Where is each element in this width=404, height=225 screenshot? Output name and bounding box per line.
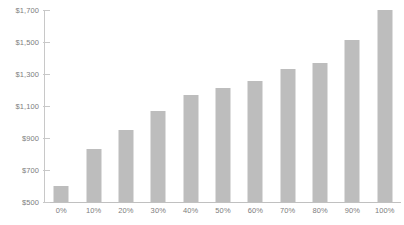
x-axis-line — [44, 202, 401, 203]
bar-slot — [45, 10, 77, 202]
y-axis-tick: $1,300 — [0, 69, 50, 79]
bar — [280, 69, 295, 202]
caption-clip — [0, 216, 404, 225]
bar — [313, 63, 328, 202]
bar-slot — [110, 10, 142, 202]
bar-slot — [272, 10, 304, 202]
bar-chart: $500$700$900$1,100$1,300$1,500$1,700 0%1… — [0, 0, 404, 225]
bar-slot — [239, 10, 271, 202]
y-axis-tick: $1,100 — [0, 101, 50, 111]
bar — [183, 95, 198, 202]
y-axis-tick-label: $1,100 — [15, 102, 39, 111]
plot-area — [45, 10, 401, 202]
bar-slot — [207, 10, 239, 202]
y-axis-tick: $1,700 — [0, 5, 50, 15]
y-axis-tick-mark — [43, 202, 50, 203]
bar — [86, 149, 101, 202]
y-axis-tick-label: $1,500 — [15, 38, 39, 47]
bar — [118, 130, 133, 202]
bar — [54, 186, 69, 202]
bar-slot — [336, 10, 368, 202]
bar — [151, 111, 166, 202]
y-axis-tick-label: $1,700 — [15, 6, 39, 15]
bar-slot — [369, 10, 401, 202]
bar-slot — [142, 10, 174, 202]
x-axis-tick-label: 100% — [365, 206, 404, 215]
bar-slot — [77, 10, 109, 202]
bar — [377, 10, 392, 202]
y-axis-tick-label: $900 — [22, 134, 39, 143]
y-axis-tick-label: $1,300 — [15, 70, 39, 79]
y-axis-tick: $700 — [0, 165, 50, 175]
bar — [345, 40, 360, 202]
y-axis-tick: $1,500 — [0, 37, 50, 47]
y-axis-tick: $900 — [0, 133, 50, 143]
y-axis-tick-label: $500 — [22, 198, 39, 207]
bar-slot — [304, 10, 336, 202]
bar-slot — [174, 10, 206, 202]
y-axis-tick-label: $700 — [22, 166, 39, 175]
bar — [248, 81, 263, 202]
bar — [215, 88, 230, 202]
